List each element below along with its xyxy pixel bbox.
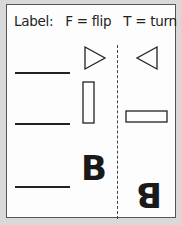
answer-blank-1[interactable] (15, 72, 70, 74)
worksheet-card: Label: F = flip T = turn B B (6, 4, 176, 218)
triangle-right-icon (83, 45, 107, 71)
triangle-left-icon (135, 45, 159, 71)
answer-blank-3[interactable] (15, 186, 70, 188)
letter-b-turned: B (136, 178, 162, 212)
rectangle-horizontal-icon (125, 110, 169, 124)
flip-key: F = flip (65, 13, 111, 29)
turn-key: T = turn (123, 13, 176, 29)
instruction-header: Label: F = flip T = turn (14, 13, 181, 29)
dashed-divider (117, 45, 118, 219)
rectangle-vertical-icon (82, 81, 96, 125)
label-text: Label: (14, 13, 53, 29)
letter-b: B (81, 151, 107, 185)
answer-blank-2[interactable] (15, 123, 70, 125)
